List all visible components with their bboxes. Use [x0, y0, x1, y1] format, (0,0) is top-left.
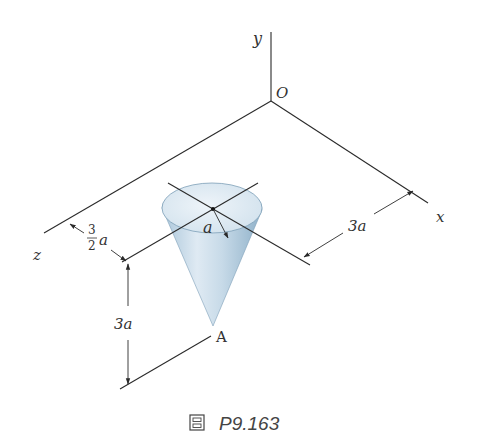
x-axis	[271, 101, 428, 203]
apex-label: A	[215, 328, 227, 346]
apex-extension-line	[120, 336, 211, 389]
offset-x-arrow-upper	[374, 191, 413, 214]
offset-x-label: 3a	[348, 217, 367, 235]
offset-z-denominator: 2	[88, 239, 96, 253]
offset-z-arrow-upper	[70, 224, 84, 233]
x-axis-label: x	[436, 208, 445, 226]
y-axis-label: y	[252, 29, 263, 48]
origin-label: O	[276, 84, 288, 102]
offset-z-arrow-lower	[111, 250, 126, 261]
offset-x-arrow-lower	[304, 233, 343, 257]
figure-caption: P9.163	[190, 413, 280, 434]
z-axis-label: z	[32, 246, 41, 264]
figure-glyph-icon	[190, 415, 204, 430]
figure-p9-163: y O x z a 3 2 a 3a 3a A P9.163	[0, 0, 487, 436]
offset-z-variable: a	[99, 231, 108, 249]
height-label: 3a	[114, 315, 133, 333]
radius-label: a	[203, 218, 213, 237]
figure-caption-text: P9.163	[219, 413, 280, 434]
offset-z-numerator: 3	[88, 223, 96, 237]
